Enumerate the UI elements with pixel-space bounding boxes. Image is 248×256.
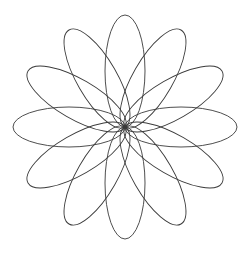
rosette-figure (0, 0, 248, 256)
figure-canvas (0, 0, 248, 256)
